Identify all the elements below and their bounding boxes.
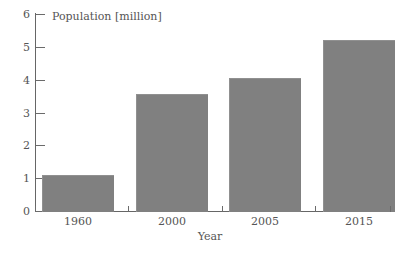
y-tick-label-3: 3 <box>4 108 30 119</box>
x-tick-label-1960: 1960 <box>48 216 108 228</box>
y-tick-4 <box>36 80 45 81</box>
x-tick-end <box>390 206 391 212</box>
y-tick-label-0: 0 <box>4 206 30 217</box>
y-tick-label-5: 5 <box>4 42 30 53</box>
x-tick-label-2000: 2000 <box>142 216 202 228</box>
x-tick-2 <box>222 206 223 212</box>
bar-2015 <box>323 40 395 212</box>
x-axis-title: Year <box>0 231 420 243</box>
y-tick-label-1: 1 <box>4 173 30 184</box>
bar-2000 <box>136 94 208 212</box>
y-tick-2 <box>36 145 45 146</box>
bar-1960 <box>42 175 114 212</box>
bar-chart: Population [million] 0 1 2 3 4 5 6 1960 … <box>0 0 420 256</box>
y-tick-3 <box>36 113 45 114</box>
x-tick-label-2005: 2005 <box>235 216 295 228</box>
y-tick-5 <box>36 47 45 48</box>
bar-2005 <box>229 78 301 212</box>
y-tick-6 <box>36 14 45 15</box>
y-axis-title: Population [million] <box>52 11 162 23</box>
x-tick-label-2015: 2015 <box>329 216 389 228</box>
x-tick-1 <box>128 206 129 212</box>
y-tick-label-4: 4 <box>4 75 30 86</box>
x-tick-3 <box>315 206 316 212</box>
y-tick-label-6: 6 <box>4 9 30 20</box>
x-tick-start <box>35 206 36 212</box>
y-tick-label-2: 2 <box>4 140 30 151</box>
